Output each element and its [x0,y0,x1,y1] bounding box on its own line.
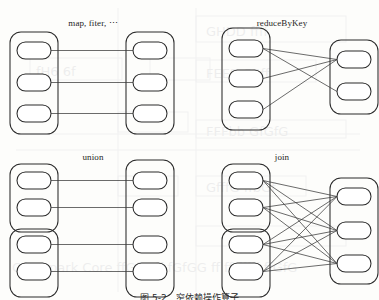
dependency-edge [263,208,337,231]
join-source-group-1 [222,229,270,297]
record-pill [133,74,167,91]
dependency-edge [263,197,337,272]
reduce-by-key-edges [263,49,337,110]
panel-reduce-by-key [222,28,378,130]
join-target-group-0 [330,178,378,284]
panel-label-join: join [222,152,342,162]
record-pill [337,255,371,272]
record-pill [229,40,263,57]
record-pill [133,263,167,280]
record-pill [17,263,51,280]
record-pill [337,188,371,205]
record-pill [229,236,263,253]
record-pill [17,236,51,253]
record-pill [229,172,263,189]
dependency-edge [263,208,337,264]
union-edges [51,181,133,272]
map-filter-target-group-0 [126,32,174,134]
record-pill [133,105,167,122]
figure-caption: 图 5-2 窄依赖操作算子 [0,291,379,300]
union-source-group-1 [10,229,58,297]
panel-label-union: union [33,152,153,162]
record-pill [229,70,263,87]
panel-map-filter [10,32,174,134]
union-target-group-0 [126,160,174,297]
union-source-group-0 [10,164,58,232]
dependency-edge [263,181,337,197]
record-pill [133,236,167,253]
panel-label-map-filter: map, fiter, ⋯ [33,18,153,28]
record-pill [17,199,51,216]
dependency-edge [263,49,337,60]
dependency-edge [263,264,337,272]
record-pill [17,42,51,59]
record-pill [229,263,263,280]
record-pill [133,172,167,189]
record-pill [17,105,51,122]
map-filter-edges [51,51,133,114]
record-pill [337,83,371,100]
record-pill [229,101,263,118]
record-pill [229,199,263,216]
map-filter-source-group-0 [10,32,58,134]
record-pill [17,74,51,91]
rdd-transformations-figure: .box { fill: none; stroke: #2b2b2b; stro… [0,0,379,300]
reduce-by-key-target-group-0 [330,40,378,114]
panel-join [222,164,378,297]
record-pill [133,42,167,59]
panel-label-reduce-by-key: reduceByKey [222,18,342,28]
join-source-group-0 [222,164,270,232]
dependency-edge [263,49,337,92]
record-pill [17,172,51,189]
record-pill [337,222,371,239]
join-edges [263,181,337,272]
record-pill [133,199,167,216]
record-pill [337,51,371,68]
panel-union [10,160,174,297]
figure-page: GHDD ffff FEED 55ff fH6 6f FFFbb GfGfG G… [0,0,379,300]
dependency-edge [263,60,337,110]
dependency-edge [263,60,337,79]
reduce-by-key-source-group-0 [222,28,270,130]
